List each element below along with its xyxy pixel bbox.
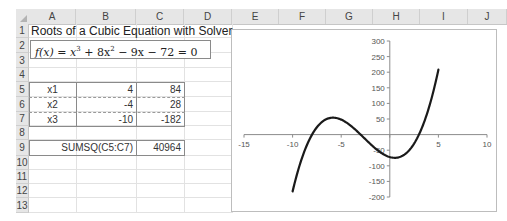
column-header-c[interactable]: C (136, 9, 184, 24)
select-all-triangle-icon (20, 15, 27, 22)
gridline-row (29, 212, 232, 213)
row-header-12[interactable]: 12 (16, 184, 29, 198)
sheet-title-cell[interactable]: Roots of a Cubic Equation with Solver (31, 24, 232, 39)
cell-b9-sumsq-label[interactable]: SUMSQ(C5:C7) (29, 141, 136, 155)
x-tick-label: 5 (436, 140, 441, 149)
row-header-4[interactable]: 4 (16, 68, 29, 82)
column-header-e[interactable]: E (232, 9, 279, 24)
y-tick-label: -100 (369, 162, 386, 171)
function-curve (293, 70, 439, 192)
cell-c7[interactable]: -182 (136, 113, 184, 127)
y-tick-label: 250 (371, 53, 385, 62)
formula-lhs: f(x) = x (35, 46, 76, 59)
formula-rest: − 9x − 72 = 0 (115, 46, 198, 59)
x-tick-label: -5 (338, 140, 346, 149)
column-header-j[interactable]: J (468, 9, 507, 24)
cell-b5[interactable]: 4 (76, 83, 136, 97)
column-header-g[interactable]: G (326, 9, 373, 24)
cell-b7[interactable]: -10 (76, 113, 136, 127)
select-all-corner[interactable] (16, 9, 29, 24)
x-tick-label: 10 (483, 140, 492, 149)
column-header-a[interactable]: A (29, 9, 76, 24)
row-header-11[interactable]: 11 (16, 170, 29, 184)
cell-a7[interactable]: x3 (29, 113, 76, 127)
x-tick-label: -15 (238, 140, 250, 149)
y-tick-label: 50 (376, 115, 385, 124)
cell-a6[interactable]: x2 (29, 98, 76, 112)
row-header-1[interactable]: 1 (16, 24, 29, 38)
column-header-d[interactable]: D (184, 9, 232, 24)
y-tick-label: -150 (369, 177, 386, 186)
row-header-10[interactable]: 10 (16, 156, 29, 170)
cell-a5[interactable]: x1 (29, 83, 76, 97)
row-header-7[interactable]: 7 (16, 112, 29, 126)
gridline-row (29, 183, 232, 184)
cell-b6[interactable]: -4 (76, 98, 136, 112)
gridline-row (29, 67, 232, 68)
column-header-row: A B C D E F G H I J (16, 9, 507, 25)
cell-c9-sumsq-value[interactable]: 40964 (136, 141, 184, 155)
row-header-8[interactable]: 8 (16, 126, 29, 140)
x-tick-label: -10 (287, 140, 299, 149)
column-header-b[interactable]: B (76, 9, 136, 24)
cell-c6[interactable]: 28 (136, 98, 184, 112)
spreadsheet: A B C D E F G H I J 12345678910111213 Ro… (0, 0, 507, 221)
row-header-2[interactable]: 2 (16, 38, 29, 53)
row-header-3[interactable]: 3 (16, 53, 29, 68)
y-tick-label: 150 (371, 84, 385, 93)
row-header-5[interactable]: 5 (16, 82, 29, 97)
cubic-function-chart[interactable]: -15-10-551030025020015010050-50-100-150-… (231, 29, 497, 212)
column-header-f[interactable]: F (279, 9, 326, 24)
gridline-row (29, 197, 232, 198)
gridline-row (29, 169, 232, 170)
row-header-6[interactable]: 6 (16, 97, 29, 112)
formula-textbox[interactable]: f(x) = x3 + 8x2 − 9x − 72 = 0 (30, 40, 211, 59)
formula-mid: + 8x (81, 46, 110, 59)
row-header-13[interactable]: 13 (16, 198, 29, 213)
column-header-i[interactable]: I (420, 9, 468, 24)
row-header-9[interactable]: 9 (16, 140, 29, 156)
y-tick-label: 200 (371, 68, 385, 77)
y-tick-label: -200 (369, 193, 386, 202)
chart-plot-area: -15-10-551030025020015010050-50-100-150-… (232, 30, 498, 213)
cell-c5[interactable]: 84 (136, 83, 184, 97)
y-tick-label: 100 (371, 99, 385, 108)
column-header-h[interactable]: H (373, 9, 420, 24)
y-tick-label: 300 (371, 37, 385, 46)
